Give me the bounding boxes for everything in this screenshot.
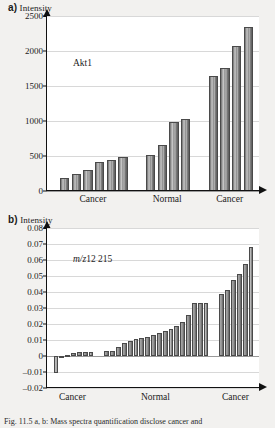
bar bbox=[232, 46, 241, 191]
panel-b-annotation-italic: m/z bbox=[73, 254, 86, 264]
y-tick-label: 500 bbox=[30, 152, 44, 161]
panel-a-x-axis bbox=[47, 190, 259, 191]
bar bbox=[237, 274, 242, 356]
x-group-label-cancer: Cancer bbox=[59, 390, 86, 404]
bar bbox=[198, 303, 203, 356]
panel-a-annotation: Akt1 bbox=[73, 58, 92, 68]
y-tick-label: 0.01 bbox=[27, 336, 43, 345]
bar bbox=[89, 352, 94, 356]
y-tick-label: 0.08 bbox=[27, 224, 43, 233]
bar bbox=[128, 341, 133, 356]
bar bbox=[134, 339, 139, 356]
bar bbox=[249, 247, 254, 356]
panel-a-annotation-text: Akt1 bbox=[73, 58, 92, 68]
bar bbox=[116, 347, 121, 356]
x-group-label-normal: Normal bbox=[153, 192, 182, 206]
y-tick-label: 0.05 bbox=[27, 272, 43, 281]
bar bbox=[169, 329, 174, 356]
panel-b-letter: b) bbox=[8, 214, 18, 225]
bar bbox=[77, 352, 82, 356]
bar bbox=[71, 353, 76, 356]
panel-a-x-tick-labels: CancerNormalCancer bbox=[46, 192, 259, 206]
y-tick-label: 0.07 bbox=[27, 240, 43, 249]
bar bbox=[139, 338, 144, 356]
bar bbox=[204, 303, 209, 356]
panel-b-plot-area: 0.080.070.060.050.040.030.020.010–0.01–0… bbox=[46, 228, 259, 388]
bar bbox=[209, 76, 218, 191]
bar bbox=[110, 351, 115, 356]
y-tick-label: 0.02 bbox=[27, 320, 43, 329]
bar bbox=[65, 355, 70, 357]
bar bbox=[83, 170, 92, 191]
y-tick-label: 1500 bbox=[25, 82, 43, 91]
bar bbox=[59, 356, 64, 358]
panel-a-letter: a) bbox=[8, 2, 17, 13]
bar bbox=[169, 122, 178, 191]
bar bbox=[163, 331, 168, 356]
panel-a-bars bbox=[47, 16, 259, 191]
x-group-label-cancer: Cancer bbox=[216, 192, 243, 206]
panel-a-plot-area: 25002000150010005000 Akt1 bbox=[46, 16, 259, 191]
gridline bbox=[47, 388, 259, 389]
bar bbox=[151, 335, 156, 356]
panel-b-annotation: m/z12 215 bbox=[73, 254, 112, 264]
y-tick-label: –0.01 bbox=[23, 368, 43, 377]
y-tick-label: 2000 bbox=[25, 47, 43, 56]
bar bbox=[145, 337, 150, 356]
x-group-label-cancer: Cancer bbox=[222, 390, 249, 404]
panel-b: b) Intensity 0.080.070.060.050.040.030.0… bbox=[0, 212, 275, 412]
bar bbox=[54, 356, 59, 373]
y-tick-label: 2500 bbox=[25, 12, 43, 21]
bar bbox=[186, 315, 191, 356]
panel-a-x-axis-arrow-icon bbox=[259, 186, 267, 194]
panel-b-annotation-text: 12 215 bbox=[86, 254, 112, 264]
panel-b-x-axis-arrow-icon bbox=[259, 383, 267, 391]
y-tick-label: 0.06 bbox=[27, 256, 43, 265]
panel-b-x-tick-labels: CancerNormalCancer bbox=[46, 390, 259, 404]
bar bbox=[220, 68, 229, 191]
bar bbox=[158, 145, 167, 191]
figure-root: a) Intensity 25002000150010005000 Akt1 C… bbox=[0, 0, 275, 428]
bar bbox=[104, 351, 109, 356]
bar bbox=[122, 343, 127, 356]
panel-b-bars bbox=[47, 228, 259, 388]
bar bbox=[118, 157, 127, 191]
bar bbox=[157, 333, 162, 356]
y-tick-label: 1000 bbox=[25, 117, 43, 126]
y-tick-label: 0.03 bbox=[27, 304, 43, 313]
bar bbox=[146, 155, 155, 191]
y-tick-label: 0.04 bbox=[27, 288, 43, 297]
bar bbox=[174, 326, 179, 356]
bar bbox=[72, 174, 81, 192]
panel-b-x-axis bbox=[47, 387, 259, 388]
bar bbox=[95, 162, 104, 191]
bar bbox=[107, 160, 116, 192]
bar bbox=[83, 352, 88, 356]
bar bbox=[181, 119, 190, 191]
bar bbox=[225, 290, 230, 356]
bar bbox=[244, 27, 253, 191]
bar bbox=[219, 294, 224, 356]
bar bbox=[243, 264, 248, 356]
bar bbox=[231, 280, 236, 356]
panel-a: a) Intensity 25002000150010005000 Akt1 C… bbox=[0, 0, 275, 212]
x-group-label-normal: Normal bbox=[141, 390, 170, 404]
bar bbox=[180, 322, 185, 356]
x-group-label-cancer: Cancer bbox=[79, 192, 106, 206]
bar bbox=[192, 303, 197, 356]
figure-caption: Fig. 11.5 a, b: Mass spectra quantificat… bbox=[4, 417, 271, 428]
y-tick-label: –0.02 bbox=[23, 384, 43, 393]
